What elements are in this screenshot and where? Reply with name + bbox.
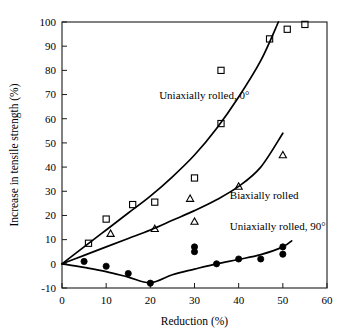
data-point-filled-circle bbox=[280, 251, 286, 257]
data-point-filled-circle bbox=[258, 256, 264, 262]
x-axis-title: Reduction (%) bbox=[161, 315, 229, 328]
fit-curve-3 bbox=[62, 241, 292, 283]
x-tick-label: 0 bbox=[59, 294, 65, 306]
y-tick-label: -10 bbox=[41, 282, 56, 294]
data-point-filled-circle bbox=[81, 258, 87, 264]
data-point-filled-circle bbox=[125, 270, 131, 276]
y-tick-label: 0 bbox=[51, 258, 57, 270]
data-point-filled-circle bbox=[213, 261, 219, 267]
series-annotation-3: Uniaxially rolled, 90° bbox=[230, 220, 326, 232]
x-tick-label: 40 bbox=[233, 294, 245, 306]
y-tick-label: 50 bbox=[45, 137, 57, 149]
x-tick-label: 20 bbox=[145, 294, 157, 306]
data-point-open-triangle bbox=[279, 151, 286, 157]
data-point-open-square bbox=[218, 67, 224, 73]
series-fit-curves bbox=[62, 22, 292, 283]
series-annotation-2: Biaxially rolled bbox=[230, 189, 299, 201]
x-axis-tick-labels: 0102030405060 bbox=[59, 294, 333, 306]
y-tick-label: 70 bbox=[45, 88, 57, 100]
y-tick-label: 60 bbox=[45, 113, 57, 125]
data-point-filled-circle bbox=[103, 263, 109, 269]
x-tick-label: 30 bbox=[189, 294, 201, 306]
y-axis-tick-labels: -100102030405060708090100 bbox=[40, 16, 57, 294]
data-point-filled-circle bbox=[236, 256, 242, 262]
data-point-open-square bbox=[152, 199, 158, 205]
y-tick-label: 80 bbox=[45, 64, 57, 76]
data-point-open-square bbox=[130, 201, 136, 207]
y-tick-label: 30 bbox=[45, 185, 57, 197]
series-annotations: Uniaxially rolled, 0°Biaxially rolledUni… bbox=[159, 89, 325, 232]
y-tick-label: 10 bbox=[45, 233, 57, 245]
figure-container: -100102030405060708090100 0102030405060 … bbox=[0, 0, 362, 333]
data-point-open-square bbox=[103, 216, 109, 222]
data-point-filled-circle bbox=[191, 249, 197, 255]
data-point-open-triangle bbox=[191, 218, 198, 224]
y-axis-ticks bbox=[62, 22, 67, 288]
data-point-open-triangle bbox=[186, 195, 193, 201]
y-tick-label: 100 bbox=[40, 16, 57, 28]
x-tick-label: 10 bbox=[101, 294, 113, 306]
x-axis-ticks bbox=[62, 283, 327, 288]
y-tick-label: 40 bbox=[45, 161, 57, 173]
series-annotation-1: Uniaxially rolled, 0° bbox=[159, 89, 249, 101]
y-axis-title: Increase in tensile strength (%) bbox=[8, 83, 21, 226]
data-point-filled-circle bbox=[147, 280, 153, 286]
chart-canvas: -100102030405060708090100 0102030405060 … bbox=[0, 0, 362, 333]
data-point-open-triangle bbox=[107, 230, 114, 236]
data-point-filled-circle bbox=[280, 244, 286, 250]
data-point-open-square bbox=[191, 175, 197, 181]
y-tick-label: 90 bbox=[45, 40, 57, 52]
data-point-open-square bbox=[284, 26, 290, 32]
x-tick-label: 60 bbox=[322, 294, 334, 306]
x-tick-label: 50 bbox=[277, 294, 289, 306]
y-tick-label: 20 bbox=[45, 209, 57, 221]
